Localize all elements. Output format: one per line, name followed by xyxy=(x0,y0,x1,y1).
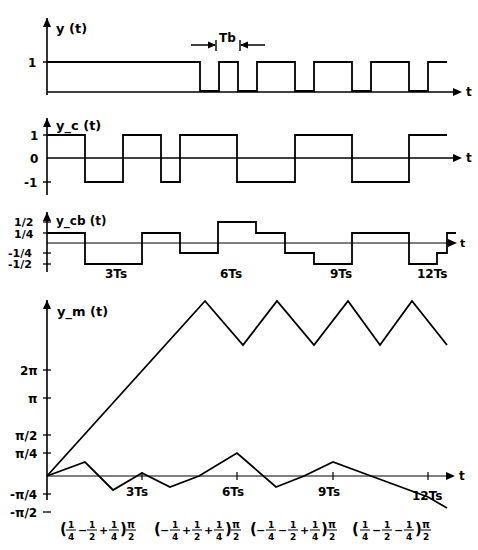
panel-yc-axis-arrow-right xyxy=(453,154,462,162)
formula-1-term3-den: 4 xyxy=(111,532,117,542)
formula-2-term1-num: 1 xyxy=(172,520,178,530)
panel-ym-xticklabel-6ts: 6Ts xyxy=(222,485,244,499)
formula-2-term2-num: 1 xyxy=(194,520,200,530)
formula-2-term3-num: 1 xyxy=(216,520,222,530)
formula-3-sign1: − xyxy=(256,524,265,537)
panel-y-axis-arrow-right xyxy=(453,88,462,96)
panel-ym-signal-label: y_m (t) xyxy=(57,304,108,320)
formula-1: ( 1 4 − 1 2 + 1 4 ) π 2 xyxy=(60,519,136,542)
panel-ym-ticklabel-pihalf: π/2 xyxy=(15,429,37,443)
formula-4-term3-den: 4 xyxy=(406,532,412,542)
formula-3-close: ) xyxy=(321,520,328,538)
panel-yc-ticklabel-pos1: 1 xyxy=(30,129,38,143)
formula-3: ( − 1 4 − 1 2 + 1 4 ) π 2 xyxy=(250,519,337,542)
waveform-figure: t y (t) 1 Tb t y_c (t) 1 0 -1 xyxy=(0,0,478,550)
formula-4-factor-num: π xyxy=(422,519,430,530)
panel-ym-time-label: t xyxy=(459,469,465,483)
formula-2-sign1: − xyxy=(160,524,169,537)
formula-2-op2: + xyxy=(204,524,213,537)
formula-3-term1-num: 1 xyxy=(268,520,274,530)
formula-1-close: ) xyxy=(120,520,127,538)
formula-2-term2-den: 2 xyxy=(194,532,200,542)
tb-label: Tb xyxy=(219,31,236,45)
formula-4-close: ) xyxy=(415,520,422,538)
formula-3-term3-den: 4 xyxy=(312,532,318,542)
panel-ym-ticklabel-negpiquarter: -π/4 xyxy=(10,488,37,502)
panel-y: t y (t) 1 Tb xyxy=(28,18,472,99)
formula-4-open: ( xyxy=(352,520,359,538)
formula-2-close: ) xyxy=(225,520,232,538)
formula-1-op2: + xyxy=(99,524,108,537)
formula-3-term1-den: 4 xyxy=(268,532,274,542)
panel-yc-ticklabel-neg1: -1 xyxy=(24,176,37,190)
figure-svg: t y (t) 1 Tb t y_c (t) 1 0 -1 xyxy=(0,0,478,550)
panel-y-ticklabel-1: 1 xyxy=(28,56,36,70)
formula-3-factor-num: π xyxy=(328,519,336,530)
panel-ym-ticklabel-pi: π xyxy=(28,392,38,406)
panel-ycb-signal-label: y_cb (t) xyxy=(56,214,106,229)
formula-3-term2-den: 2 xyxy=(290,532,296,542)
formula-3-op2: + xyxy=(300,524,309,537)
panel-ycb-axis-arrow-right xyxy=(448,239,457,247)
formula-4-term2-num: 1 xyxy=(384,520,390,530)
panel-ym-axis-arrow-up xyxy=(43,300,51,309)
formula-3-factor-den: 2 xyxy=(329,532,335,542)
formula-4-factor-den: 2 xyxy=(423,532,429,542)
formula-3-term3-num: 1 xyxy=(312,520,318,530)
formula-4-term1-den: 4 xyxy=(362,532,368,542)
panel-ym-xticklabel-9ts: 9Ts xyxy=(318,485,340,499)
formula-4-term2-den: 2 xyxy=(384,532,390,542)
panel-yc: t y_c (t) 1 0 -1 xyxy=(24,118,472,195)
formula-1-open: ( xyxy=(60,520,67,538)
panel-ycb: t y_cb (t) 1/2 1/4 -1/4 -1/2 3Ts 6Ts 9Ts… xyxy=(8,212,465,281)
formula-3-op1: − xyxy=(278,524,287,537)
panel-ycb-xticklabel-6ts: 6Ts xyxy=(220,267,242,281)
panel-ycb-axis-arrow-up xyxy=(43,212,51,221)
formula-2-term1-den: 4 xyxy=(172,532,178,542)
panel-ym-xticklabel-3ts: 3Ts xyxy=(126,485,148,499)
panel-ym-ticklabel-2pi: 2π xyxy=(20,364,38,378)
panel-yc-time-label: t xyxy=(466,151,472,165)
panel-ycb-xticklabel-9ts: 9Ts xyxy=(330,267,352,281)
panel-y-axis-arrow-up xyxy=(43,18,51,27)
formula-4: ( 1 4 − 1 2 − 1 4 ) π 2 xyxy=(352,519,431,542)
panel-ycb-ticklabel-neghalf: -1/2 xyxy=(8,258,32,271)
formula-4-op2: − xyxy=(394,524,403,537)
formula-2-op1: + xyxy=(182,524,191,537)
formula-4-term1-num: 1 xyxy=(362,520,368,530)
formula-1-term1-den: 4 xyxy=(68,532,74,542)
formula-1-term2-den: 2 xyxy=(89,532,95,542)
formula-2-factor-num: π xyxy=(232,519,240,530)
tb-arrow-left-head xyxy=(208,42,216,49)
panel-yc-axis-arrow-up xyxy=(43,118,51,127)
panel-ym-ticklabel-negpihalf: -π/2 xyxy=(10,506,37,520)
panel-ycb-xticklabel-12ts: 12Ts xyxy=(417,267,447,281)
panel-ycb-time-label: t xyxy=(460,237,465,250)
panel-ym-lower-trace xyxy=(47,453,447,508)
formula-4-term3-num: 1 xyxy=(406,520,412,530)
formula-2-term3-den: 4 xyxy=(216,532,222,542)
formula-row: ( 1 4 − 1 2 + 1 4 ) π 2 ( − 1 4 + 1 xyxy=(60,519,431,542)
formula-4-op1: − xyxy=(372,524,381,537)
panel-y-waveform xyxy=(47,62,447,91)
panel-ycb-xticklabel-3ts: 3Ts xyxy=(105,267,127,281)
panel-y-signal-label: y (t) xyxy=(56,21,87,36)
formula-2-factor-den: 2 xyxy=(233,532,239,542)
formula-1-op1: − xyxy=(78,524,87,537)
formula-1-term2-num: 1 xyxy=(89,520,95,530)
formula-3-term2-num: 1 xyxy=(290,520,296,530)
formula-1-factor-den: 2 xyxy=(128,532,134,542)
panel-ym: t y_m (t) 2π π π/2 π/4 -π/4 -π/2 3Ts 6Ts… xyxy=(10,300,465,520)
panel-ym-upper-trace xyxy=(47,301,447,476)
formula-1-term3-num: 1 xyxy=(111,520,117,530)
formula-1-term1-num: 1 xyxy=(68,520,74,530)
panel-y-time-label: t xyxy=(466,85,472,99)
formula-2: ( − 1 4 + 1 2 + 1 4 ) π 2 xyxy=(154,519,241,542)
formula-1-factor-num: π xyxy=(127,519,135,530)
panel-ym-axis-arrow-right xyxy=(446,472,455,480)
panel-ycb-ticklabel-quarter: 1/4 xyxy=(14,228,34,241)
panel-ym-ticklabel-piquarter: π/4 xyxy=(15,447,37,461)
panel-yc-signal-label: y_c (t) xyxy=(56,118,101,134)
panel-yc-ticklabel-zero: 0 xyxy=(30,152,38,166)
